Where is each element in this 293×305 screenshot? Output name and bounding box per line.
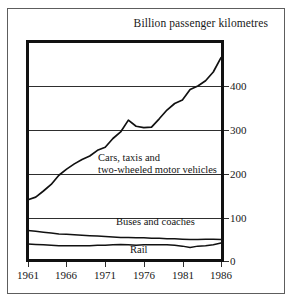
chart-figure: Billion passenger kilometres 400 300 200… — [0, 0, 293, 305]
ytick-label-400: 400 — [230, 79, 264, 93]
xtick-mark-1981 — [183, 262, 184, 267]
xtick-mark-1961 — [28, 262, 29, 267]
xtick-label-1976: 1976 — [124, 268, 164, 283]
series-label-cars: Cars, taxis and two-wheeled motor vehicl… — [98, 152, 217, 176]
ytick-mark-300 — [224, 130, 229, 131]
plot-area: 400 300 200 100 0 1961 1966 1971 1976 19… — [26, 40, 224, 262]
series-line-cars — [28, 58, 221, 200]
series-label-buses: Buses and coaches — [116, 216, 195, 228]
ytick-mark-400 — [224, 86, 229, 87]
xtick-label-1981: 1981 — [163, 268, 203, 283]
ytick-mark-200 — [224, 174, 229, 175]
xtick-label-1961: 1961 — [8, 268, 48, 283]
series-line-rail — [28, 243, 221, 247]
ytick-mark-100 — [224, 218, 229, 219]
series-label-cars-line1: Cars, taxis and — [98, 152, 217, 164]
chart-title: Billion passenger kilometres — [118, 15, 268, 31]
xtick-label-1971: 1971 — [85, 268, 125, 283]
xtick-mark-1971 — [105, 262, 106, 267]
xtick-mark-1966 — [66, 262, 67, 267]
xtick-mark-1986 — [221, 262, 222, 267]
series-line-buses — [28, 230, 221, 239]
series-label-rail: Rail — [130, 244, 148, 256]
ytick-label-0: 0 — [230, 254, 264, 268]
series-plot — [26, 40, 224, 262]
ytick-label-200: 200 — [230, 167, 264, 181]
xtick-label-1986: 1986 — [201, 268, 241, 283]
ytick-label-300: 300 — [230, 123, 264, 137]
xtick-label-1966: 1966 — [46, 268, 86, 283]
ytick-mark-0 — [224, 261, 229, 262]
series-label-cars-line2: two-wheeled motor vehicles — [98, 164, 217, 176]
ytick-label-100: 100 — [230, 211, 264, 225]
xtick-mark-1976 — [144, 262, 145, 267]
